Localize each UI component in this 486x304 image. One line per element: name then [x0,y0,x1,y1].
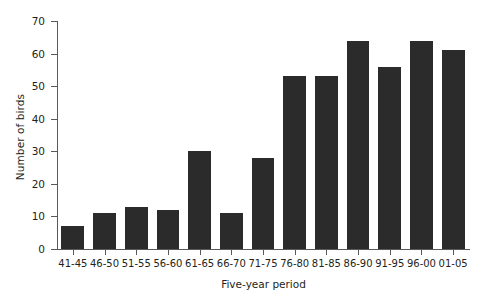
x-axis-tick-mark [136,250,137,255]
x-axis-tick-mark [390,250,391,255]
bar [378,67,401,249]
x-axis-tick-mark [453,250,454,255]
x-axis-tick-label: 61-65 [184,258,216,269]
bar-series [57,21,469,249]
y-axis-ticks: 010203040506070 [0,0,57,304]
x-axis-tick-mark [200,250,201,255]
bar [442,50,465,249]
x-axis-tick-label: 46-50 [89,258,121,269]
bar [157,210,180,249]
x-axis-tick-label: 91-95 [374,258,406,269]
y-axis-tick-label: 30 [0,145,45,157]
x-axis-tick-label: 51-55 [120,258,152,269]
x-axis-tick-mark [263,250,264,255]
x-axis-tick-label: 66-70 [215,258,247,269]
bar [125,207,148,249]
x-axis-tick-label: 01-05 [437,258,469,269]
bar [220,213,243,249]
bar [252,158,275,249]
bar [93,213,116,249]
x-axis-tick-mark [326,250,327,255]
x-axis-tick-label: 76-80 [279,258,311,269]
y-axis-tick-label: 60 [0,48,45,60]
x-axis-tick-mark [295,250,296,255]
bar [347,41,370,249]
bar-chart: Number of birds 010203040506070 41-4546-… [0,0,486,304]
x-axis-tick-mark [421,250,422,255]
bar [188,151,211,249]
x-axis-tick-mark [105,250,106,255]
y-axis-tick-mark [51,249,57,250]
y-axis-tick-label: 70 [0,15,45,27]
x-axis-tick-label: 86-90 [342,258,374,269]
bar [61,226,84,249]
x-axis-tick-mark [231,250,232,255]
x-axis-title: Five-year period [57,278,470,290]
x-axis-tick-label: 81-85 [311,258,343,269]
bar [283,76,306,249]
x-axis-tick-mark [168,250,169,255]
x-axis-tick-label: 56-60 [152,258,184,269]
bar [410,41,433,249]
y-axis-tick-label: 20 [0,178,45,190]
bar [315,76,338,249]
x-axis-tick-label: 96-00 [406,258,438,269]
x-axis-tick-label: 41-45 [57,258,89,269]
x-axis-tick-label: 71-75 [247,258,279,269]
x-axis-tick-mark [73,250,74,255]
y-axis-tick-label: 10 [0,210,45,222]
x-axis-tick-mark [358,250,359,255]
y-axis-tick-label: 0 [0,243,45,255]
y-axis-tick-label: 50 [0,80,45,92]
y-axis-tick-label: 40 [0,113,45,125]
